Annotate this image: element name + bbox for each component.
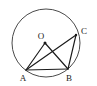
label-center-o: O	[38, 31, 45, 41]
label-vertex-b: B	[66, 73, 72, 83]
geometry-canvas: O A B C	[0, 0, 97, 86]
segment-oa	[26, 43, 45, 70]
label-vertex-c: C	[81, 26, 87, 36]
segment-ob	[45, 43, 68, 69]
center-point-o-dot	[44, 42, 47, 45]
label-vertex-a: A	[20, 73, 27, 83]
vertex-point-c-dot	[75, 34, 77, 36]
geometry-figure: O A B C	[0, 0, 97, 86]
segment-ab	[26, 69, 68, 70]
